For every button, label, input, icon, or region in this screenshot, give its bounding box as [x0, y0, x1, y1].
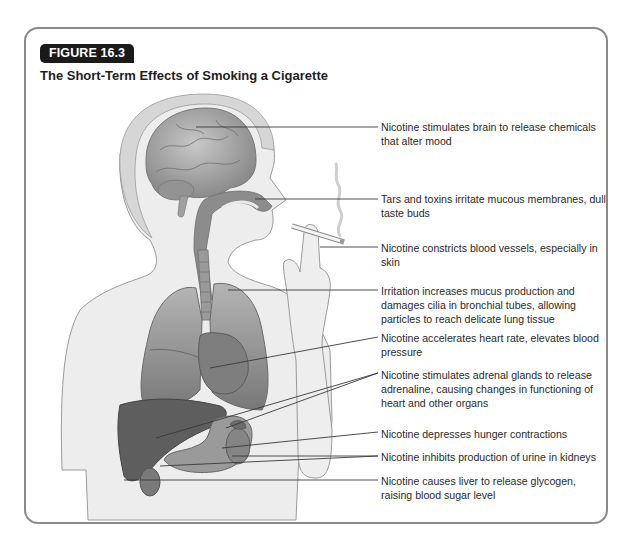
smoke	[336, 164, 342, 236]
intestine	[140, 468, 160, 496]
label-adrenal: Nicotine stimulates adrenal glands to re…	[381, 368, 606, 410]
label-liver: Nicotine causes liver to release glycoge…	[381, 474, 606, 502]
label-heart: Nicotine accelerates heart rate, elevate…	[381, 331, 606, 359]
label-brain: Nicotine stimulates brain to release che…	[381, 120, 606, 148]
anatomy-illustration	[0, 0, 632, 552]
label-stomach: Nicotine depresses hunger contractions	[381, 427, 606, 441]
label-kidneys: Nicotine inhibits production of urine in…	[381, 450, 606, 464]
label-skin: Nicotine constricts blood vessels, espec…	[381, 241, 606, 269]
label-lungs: Irritation increases mucus production an…	[381, 284, 606, 326]
label-mouth: Tars and toxins irritate mucous membrane…	[381, 192, 606, 220]
